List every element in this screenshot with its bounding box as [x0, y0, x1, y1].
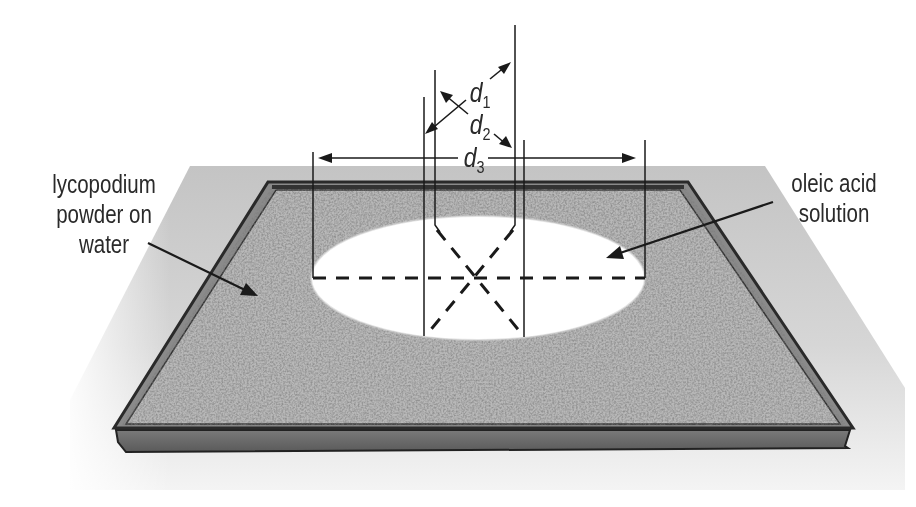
- d1-symbol: d: [470, 78, 483, 108]
- diagram-canvas: lycopodium powder on water oleic acid so…: [0, 0, 916, 507]
- oleic-acid-label: oleic acid solution: [783, 168, 885, 228]
- d3-subscript: 3: [477, 158, 485, 177]
- d2-symbol: d: [470, 110, 483, 140]
- lycopodium-label-line-3: water: [47, 229, 162, 259]
- oleic-acid-label-line-1: oleic acid: [783, 168, 885, 198]
- d2-subscript: 2: [483, 125, 491, 144]
- d1-subscript: 1: [483, 93, 491, 112]
- tray-front-side: [116, 430, 850, 452]
- lycopodium-label-line-1: lycopodium: [47, 169, 162, 199]
- d1-arrow: [425, 62, 511, 134]
- oleic-acid-label-line-2: solution: [783, 198, 885, 228]
- d3-symbol: d: [464, 143, 477, 173]
- lycopodium-label-line-2: powder on: [47, 199, 162, 229]
- d3-label: d3: [464, 145, 485, 181]
- lycopodium-label: lycopodium powder on water: [47, 169, 162, 259]
